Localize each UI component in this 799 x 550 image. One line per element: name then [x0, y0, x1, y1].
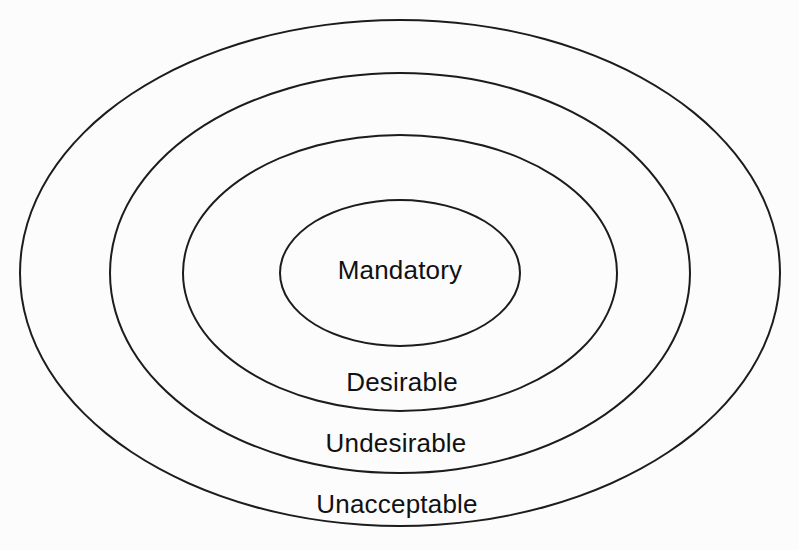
concentric-ellipse-diagram: Mandatory Desirable Undesirable Unaccept… — [0, 0, 799, 550]
ring-label-mandatory: Mandatory — [338, 255, 463, 286]
ring-label-undesirable: Undesirable — [326, 428, 467, 459]
ring-label-desirable: Desirable — [346, 367, 458, 398]
ring-label-unacceptable: Unacceptable — [316, 489, 477, 520]
